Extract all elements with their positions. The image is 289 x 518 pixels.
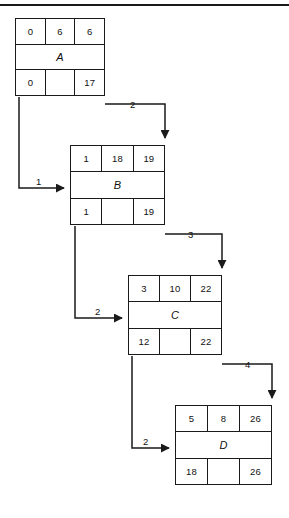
block-d-top-cell-2: 26: [240, 406, 271, 431]
block-b-top-row: 1 18 19: [71, 146, 164, 172]
weight-label-c-to-d-left: 2: [143, 436, 148, 447]
block-c-label-row: C: [129, 302, 221, 328]
block-c-bottom-cell-2: 22: [191, 329, 221, 354]
wire-b-to-c-left: [75, 226, 122, 318]
block-c-top-row: 3 10 22: [129, 276, 221, 302]
block-b-label: B: [71, 172, 164, 197]
block-b-top-cell-0: 1: [71, 146, 102, 171]
wire-c-to-d-left: [132, 356, 169, 448]
block-d-top-cell-0: 5: [176, 406, 208, 431]
block-a-bottom-cell-1: [46, 70, 76, 95]
block-b-bottom-row: 1 19: [71, 199, 164, 224]
weight-label-c-to-d-right: 4: [245, 359, 250, 370]
block-a-top-row: 0 6 6: [16, 19, 104, 45]
block-c: 3 10 22 C 12 22: [128, 275, 222, 355]
block-a-top-cell-2: 6: [75, 19, 104, 44]
figure-canvas: 0 6 6 A 0 17 1 18 19 B 1 19 3: [0, 0, 289, 518]
block-a-bottom-cell-2: 17: [75, 70, 104, 95]
block-c-bottom-cell-1: [160, 329, 191, 354]
wire-a-to-b-left: [19, 97, 64, 188]
block-d-top-row: 5 8 26: [176, 406, 271, 432]
weight-label-a-to-b-right: 2: [130, 99, 135, 110]
block-a-bottom-cell-0: 0: [16, 70, 46, 95]
top-divider-rule: [0, 4, 289, 6]
weight-label-b-to-c-left: 2: [95, 306, 100, 317]
block-b-bottom-cell-2: 19: [134, 199, 164, 224]
block-d-bottom-cell-1: [208, 459, 240, 484]
weight-label-b-to-c-right: 3: [188, 229, 193, 240]
block-d-label: D: [176, 432, 271, 457]
block-c-bottom-cell-0: 12: [129, 329, 160, 354]
block-d-bottom-row: 18 26: [176, 459, 271, 484]
block-c-label: C: [129, 302, 221, 327]
block-d-top-cell-1: 8: [208, 406, 240, 431]
block-c-top-cell-2: 22: [191, 276, 221, 301]
block-a-bottom-row: 0 17: [16, 70, 104, 95]
block-d-label-row: D: [176, 432, 271, 458]
weight-label-a-to-b-left: 1: [36, 176, 41, 187]
block-a: 0 6 6 A 0 17: [15, 18, 105, 96]
wire-b-to-c-right: [165, 234, 222, 268]
block-b-top-cell-2: 19: [134, 146, 164, 171]
block-b-bottom-cell-1: [102, 199, 133, 224]
block-c-top-cell-0: 3: [129, 276, 160, 301]
block-a-label-row: A: [16, 45, 104, 71]
block-d-bottom-cell-2: 26: [240, 459, 271, 484]
block-b: 1 18 19 B 1 19: [70, 145, 165, 225]
block-a-top-cell-1: 6: [46, 19, 76, 44]
block-a-label: A: [16, 45, 104, 70]
block-d: 5 8 26 D 18 26: [175, 405, 272, 485]
block-d-bottom-cell-0: 18: [176, 459, 208, 484]
block-b-top-cell-1: 18: [102, 146, 133, 171]
block-c-bottom-row: 12 22: [129, 329, 221, 354]
block-a-top-cell-0: 0: [16, 19, 46, 44]
block-c-top-cell-1: 10: [160, 276, 191, 301]
block-b-bottom-cell-0: 1: [71, 199, 102, 224]
block-b-label-row: B: [71, 172, 164, 198]
